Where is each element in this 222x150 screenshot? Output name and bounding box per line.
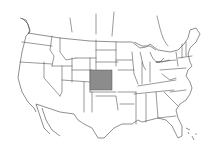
border-wi-il: [132, 52, 138, 84]
border-tn-south: [134, 90, 174, 94]
border-wv-va: [162, 74, 176, 80]
border-ga-sc: [164, 92, 178, 106]
border-oh-pa: [156, 60, 176, 62]
border-nv-ut: [60, 66, 62, 96]
international-borders: [70, 12, 168, 46]
border-or-ca: [20, 62, 52, 64]
border-ky-tn: [138, 80, 176, 86]
island-3: [192, 136, 194, 140]
us-map: [0, 0, 222, 150]
canada-line-1: [70, 18, 72, 32]
border-ca-nv: [44, 62, 60, 96]
border-al-ga: [156, 92, 158, 118]
island-4: [195, 133, 196, 134]
island-1: [186, 128, 190, 130]
border-id-mt: [60, 38, 76, 60]
border-id-wa-or: [50, 36, 54, 66]
border-ut-az: [62, 80, 90, 82]
border-ok-tx: [96, 96, 118, 110]
border-ma-ct: [178, 56, 192, 58]
baja-peninsula: [36, 104, 60, 136]
border-wa-or: [22, 42, 52, 46]
caribbean-islands: [186, 128, 197, 140]
border-ga-fl: [158, 116, 176, 118]
gulf-coast: [108, 110, 182, 138]
island-2: [188, 132, 189, 134]
canada-line-4: [157, 16, 168, 46]
west-coast: [18, 18, 36, 112]
canada-line-3: [112, 12, 114, 36]
border-ny-pa: [176, 52, 178, 66]
great-lakes: [134, 42, 170, 70]
puget-sound: [20, 18, 30, 34]
highlighted-state-kansas[interactable]: [90, 70, 112, 90]
northern-border: [28, 28, 200, 52]
border-pa-md: [160, 68, 186, 70]
